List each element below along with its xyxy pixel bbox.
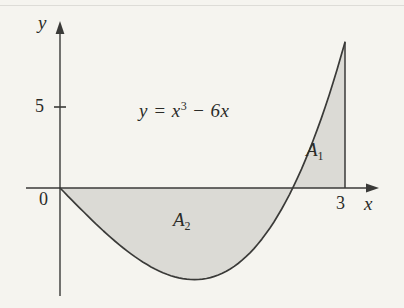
area-a2-letter: A [173, 209, 185, 230]
area-a2-label: A2 [173, 210, 191, 232]
equation-tail: − 6x [187, 100, 230, 121]
x-tick-label: 3 [336, 194, 345, 212]
y-axis-arrow-icon [56, 21, 65, 34]
x-axis-label: x [364, 194, 372, 213]
x-axis-arrow-icon [366, 184, 379, 193]
figure-canvas: y 5 0 3 x y = x3 − 6x A1 A2 [0, 0, 404, 308]
equation-base: y = x [139, 100, 181, 121]
function-graph [0, 0, 404, 308]
region-a2-fill [60, 188, 293, 280]
area-a1-subscript: 1 [318, 149, 324, 163]
y-axis-label: y [38, 13, 46, 32]
area-a1-label: A1 [306, 140, 324, 162]
origin-label: 0 [39, 190, 48, 208]
y-tick-label: 5 [35, 97, 44, 115]
equation-label: y = x3 − 6x [139, 100, 229, 120]
area-a2-subscript: 2 [185, 219, 191, 233]
area-a1-letter: A [306, 139, 318, 160]
region-a1-fill [293, 42, 345, 188]
